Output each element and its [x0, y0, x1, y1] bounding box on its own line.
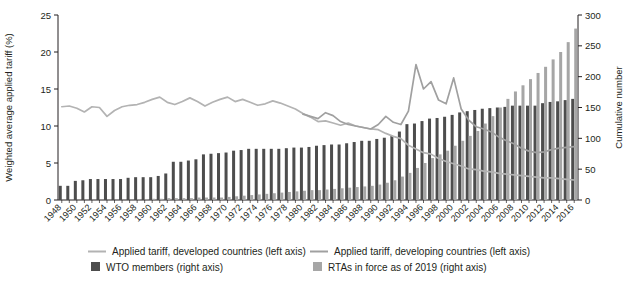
bar-wto-members — [571, 99, 574, 200]
bar-wto-members — [300, 148, 303, 200]
bar-rtas-in-force — [160, 199, 163, 200]
bar-rtas-in-force — [393, 180, 396, 200]
bar-rtas-in-force — [190, 198, 193, 200]
bar-rtas-in-force — [326, 190, 329, 200]
bar-wto-members — [323, 145, 326, 200]
right-axis-tick-label: 100 — [585, 133, 601, 144]
bar-rtas-in-force — [408, 173, 411, 200]
right-axis-title: Cumulative number — [613, 66, 624, 148]
bar-rtas-in-force — [318, 190, 321, 200]
bar-wto-members — [172, 162, 175, 200]
bar-rtas-in-force — [175, 198, 178, 200]
legend-label: Applied tariff, developing countries (le… — [334, 246, 530, 257]
right-axis-tick-label: 50 — [585, 164, 596, 175]
bar-wto-members — [466, 111, 469, 200]
bar-wto-members — [270, 149, 273, 200]
bar-wto-members — [89, 179, 92, 200]
bar-wto-members — [405, 124, 408, 200]
bar-wto-members — [458, 112, 461, 200]
bar-rtas-in-force — [310, 190, 313, 200]
bar-rtas-in-force — [280, 193, 283, 200]
right-axis-tick-label: 0 — [585, 195, 590, 206]
bar-rtas-in-force — [273, 193, 276, 200]
bar-rtas-in-force — [243, 196, 246, 200]
bar-wto-members — [240, 150, 243, 200]
left-axis-title: Weighted average applied tariff (%) — [3, 33, 14, 182]
bar-wto-members — [66, 186, 69, 200]
bar-wto-members — [149, 177, 152, 200]
bar-wto-members — [285, 148, 288, 200]
bar-wto-members — [157, 176, 160, 200]
legend-swatch-square — [313, 262, 322, 271]
bar-wto-members — [488, 108, 491, 200]
bar-rtas-in-force — [265, 194, 268, 200]
bar-wto-members — [556, 101, 559, 200]
bar-rtas-in-force — [145, 199, 148, 200]
left-axis-tick-label: 25 — [40, 10, 51, 21]
bar-rtas-in-force — [424, 163, 427, 200]
bar-rtas-in-force — [167, 198, 170, 200]
bar-rtas-in-force — [484, 124, 487, 200]
bar-wto-members — [375, 139, 378, 200]
tariff-rta-chart: 0510152025050100150200250300194819501952… — [0, 0, 634, 282]
legend-item: Applied tariff, developing countries (le… — [310, 246, 530, 257]
left-axis-tick-label: 15 — [40, 84, 51, 95]
bar-rtas-in-force — [431, 158, 434, 200]
bar-rtas-in-force — [439, 154, 442, 200]
bar-rtas-in-force — [182, 198, 185, 200]
left-axis-tick-label: 5 — [46, 158, 51, 169]
bar-rtas-in-force — [476, 131, 479, 200]
bar-wto-members — [134, 177, 137, 200]
right-axis-tick-label: 250 — [585, 40, 601, 51]
bar-wto-members — [451, 115, 454, 200]
bar-wto-members — [292, 148, 295, 200]
bar-wto-members — [481, 109, 484, 200]
bar-wto-members — [518, 106, 521, 200]
bar-rtas-in-force — [356, 187, 359, 200]
bar-wto-members — [104, 179, 107, 200]
bar-rtas-in-force — [386, 183, 389, 200]
bar-rtas-in-force — [333, 189, 336, 200]
bar-wto-members — [164, 173, 167, 200]
bar-rtas-in-force — [461, 141, 464, 200]
bar-wto-members — [255, 149, 258, 200]
bar-rtas-in-force — [348, 188, 351, 200]
bar-rtas-in-force — [288, 192, 291, 200]
bar-wto-members — [564, 100, 567, 200]
bar-wto-members — [81, 180, 84, 200]
bar-wto-members — [398, 132, 401, 200]
bar-wto-members — [119, 179, 122, 200]
left-axis-tick-label: 0 — [46, 195, 51, 206]
legend-label: WTO members (right axis) — [106, 262, 223, 273]
bar-wto-members — [127, 178, 130, 200]
bar-rtas-in-force — [250, 195, 253, 200]
bar-wto-members — [194, 159, 197, 200]
bar-wto-members — [353, 142, 356, 200]
bar-rtas-in-force — [258, 194, 261, 200]
bar-rtas-in-force — [529, 79, 532, 200]
bar-wto-members — [390, 136, 393, 200]
bar-wto-members — [503, 107, 506, 200]
bar-rtas-in-force — [220, 198, 223, 200]
bar-rtas-in-force — [469, 136, 472, 200]
bar-wto-members — [345, 143, 348, 200]
bar-rtas-in-force — [574, 29, 577, 200]
bar-rtas-in-force — [446, 151, 449, 200]
right-axis-tick-label: 150 — [585, 102, 601, 113]
bar-wto-members — [383, 138, 386, 200]
bar-rtas-in-force — [491, 116, 494, 200]
bar-wto-members — [74, 181, 77, 200]
bar-rtas-in-force — [137, 199, 140, 200]
bar-rtas-in-force — [197, 198, 200, 200]
bar-rtas-in-force — [499, 108, 502, 201]
bar-wto-members — [315, 146, 318, 200]
bar-wto-members — [496, 108, 499, 201]
bar-wto-members — [307, 147, 310, 200]
legend-swatch-square — [91, 262, 100, 271]
right-axis-tick-label: 200 — [585, 71, 601, 82]
bar-wto-members — [217, 153, 220, 200]
bar-rtas-in-force — [228, 197, 231, 200]
bar-wto-members — [262, 149, 265, 200]
bar-wto-members — [232, 151, 235, 200]
bar-rtas-in-force — [295, 191, 298, 200]
